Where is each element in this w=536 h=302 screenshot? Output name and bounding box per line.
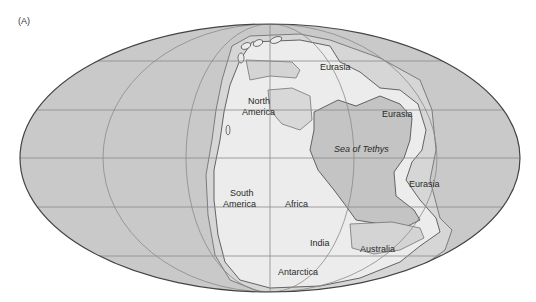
label-india: India	[310, 238, 330, 248]
label-africa: Africa	[285, 199, 308, 209]
label-australia: Australia	[360, 244, 395, 254]
label-eurasia-east: Eurasia	[382, 109, 413, 119]
label-north-america-line1: North	[248, 96, 270, 106]
label-antarctica: Antarctica	[278, 267, 318, 277]
label-eurasia-south: Eurasia	[409, 179, 440, 189]
island	[238, 53, 244, 63]
label-sea-of-tethys: Sea of Tethys	[334, 144, 389, 154]
label-eurasia-north: Eurasia	[320, 62, 351, 72]
label-south-america-line1: South	[230, 188, 254, 198]
pangaea-map: Eurasia Eurasia Eurasia North America Se…	[0, 0, 536, 302]
label-north-america-line2: America	[242, 107, 275, 117]
label-south-america-line2: America	[223, 199, 256, 209]
island	[226, 125, 230, 135]
